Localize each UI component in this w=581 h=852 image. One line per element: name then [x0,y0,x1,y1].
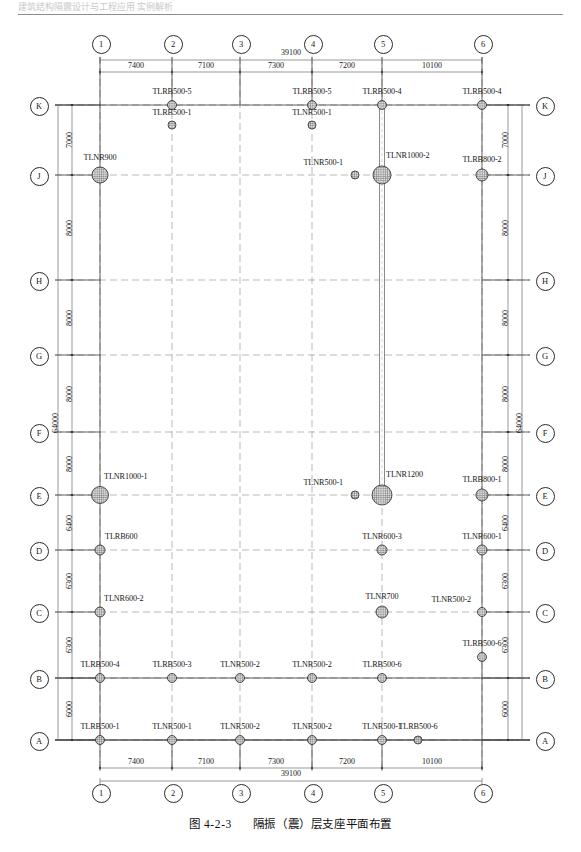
bearing[interactable] [478,101,487,110]
grid-bubble-row-B[interactable]: B [536,670,555,689]
bearing-symbol[interactable] [372,485,392,505]
bearing[interactable] [308,736,317,745]
bearing-symbol[interactable] [308,736,317,745]
grid-bubble-row-G[interactable]: G [536,347,555,366]
bearing[interactable] [95,545,105,555]
grid-bubble-row-B[interactable]: B [30,670,49,689]
bearing-label: TLNR500-1 [303,478,343,487]
bearing[interactable] [376,606,388,618]
grid-bubble-col-3[interactable]: 3 [232,35,251,54]
bearing[interactable] [478,608,487,617]
bearing-symbol[interactable] [96,674,105,683]
bearing[interactable] [377,545,387,555]
grid-bubble-col-2[interactable]: 2 [164,35,183,54]
bearing-symbol[interactable] [236,736,245,745]
bearing[interactable] [378,736,387,745]
bearing[interactable] [92,487,109,504]
bearing[interactable] [168,736,177,745]
bearing[interactable] [378,101,387,110]
bearing[interactable] [95,607,105,617]
grid-bubble-row-F[interactable]: F [536,424,555,443]
dim-tick [507,174,509,176]
grid-bubble-col-3[interactable]: 3 [232,784,251,803]
grid-bubble-row-K[interactable]: K [30,97,49,116]
bearing-label: TLRB500-4 [362,87,401,96]
bearing[interactable] [96,736,105,745]
grid-bubble-row-J[interactable]: J [536,167,555,186]
bearing[interactable] [308,674,317,683]
bearing-symbol[interactable] [95,545,105,555]
dim-span-top-0: 7400 [128,61,144,70]
bearing[interactable] [373,166,391,184]
bearing-label: TLNR500-2 [220,660,260,669]
bearing-symbol[interactable] [378,101,387,110]
grid-bubble-row-D[interactable]: D [536,542,555,561]
bearing[interactable] [308,121,316,129]
bearing-symbol[interactable] [308,674,317,683]
bearing[interactable] [236,674,245,683]
bearing[interactable] [414,736,422,744]
grid-bubble-row-C[interactable]: C [536,604,555,623]
grid-bubble-col-1[interactable]: 1 [92,784,111,803]
bearing[interactable] [168,121,176,129]
grid-bubble-col-1[interactable]: 1 [92,35,111,54]
grid-bubble-row-A[interactable]: A [536,732,555,751]
grid-bubble-col-6[interactable]: 6 [474,35,493,54]
bearing-symbol[interactable] [168,736,177,745]
bearing[interactable] [351,491,359,499]
dim-vspan-left-0: 7000 [65,132,74,148]
grid-bubble-row-J[interactable]: J [30,167,49,186]
bearing-symbol[interactable] [351,171,359,179]
grid-bubble-row-A[interactable]: A [30,732,49,751]
grid-bubble-col-5[interactable]: 5 [374,784,393,803]
bearing-symbol[interactable] [351,491,359,499]
bearing-symbol[interactable] [377,545,387,555]
bearing-symbol[interactable] [478,101,487,110]
bearing-symbol[interactable] [476,489,488,501]
grid-bubble-row-H[interactable]: H [30,272,49,291]
grid-bubble-row-G[interactable]: G [30,347,49,366]
bearing[interactable] [92,167,108,183]
bearing-symbol[interactable] [477,545,487,555]
bearing-symbol[interactable] [168,121,176,129]
bearing[interactable] [351,171,359,179]
grid-bubble-row-H[interactable]: H [536,272,555,291]
bearing-symbol[interactable] [378,674,387,683]
grid-bubble-row-C[interactable]: C [30,604,49,623]
grid-bubble-col-4[interactable]: 4 [304,35,323,54]
grid-bubble-col-5[interactable]: 5 [374,35,393,54]
bearing[interactable] [477,545,487,555]
grid-bubble-row-D[interactable]: D [30,542,49,561]
bearing[interactable] [168,674,177,683]
bearing-symbol[interactable] [478,608,487,617]
bearing-symbol[interactable] [478,653,487,662]
bearing-symbol[interactable] [95,607,105,617]
bearing[interactable] [96,674,105,683]
grid-bubble-col-2[interactable]: 2 [164,784,183,803]
bearing-symbol[interactable] [373,166,391,184]
bearing[interactable] [478,653,487,662]
bearing-symbol[interactable] [378,736,387,745]
grid-bubble-col-6[interactable]: 6 [474,784,493,803]
bearing-symbol[interactable] [414,736,422,744]
grid-bubble-row-K[interactable]: K [536,97,555,116]
bearing[interactable] [236,736,245,745]
bearing[interactable] [372,485,392,505]
dim-tick [71,279,73,281]
dim-tick [507,431,509,433]
grid-bubble-row-E[interactable]: E [536,487,555,506]
bearing-symbol[interactable] [236,674,245,683]
bearing-symbol[interactable] [92,167,108,183]
grid-bubble-col-4[interactable]: 4 [304,784,323,803]
bearing[interactable] [476,169,488,181]
bearing[interactable] [378,674,387,683]
grid-bubble-row-E[interactable]: E [30,487,49,506]
grid-bubble-row-F[interactable]: F [30,424,49,443]
bearing-symbol[interactable] [96,736,105,745]
bearing-symbol[interactable] [308,121,316,129]
bearing[interactable] [476,489,488,501]
bearing-symbol[interactable] [476,169,488,181]
bearing-symbol[interactable] [168,674,177,683]
bearing-symbol[interactable] [376,606,388,618]
bearing-symbol[interactable] [92,487,109,504]
